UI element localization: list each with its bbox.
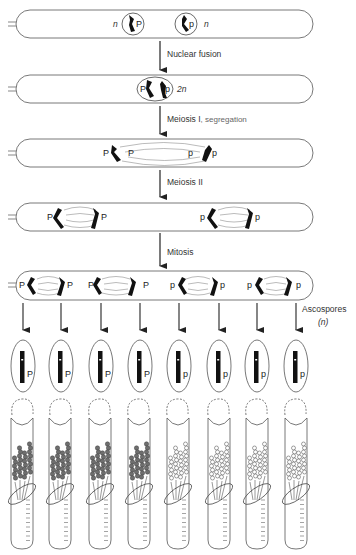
ploidy-label-2n: 2n xyxy=(177,85,186,94)
chromosome-icon xyxy=(202,145,212,162)
ascus-stage-1 xyxy=(8,10,313,38)
agar-slants xyxy=(5,480,312,508)
meiosis-1-label: Meiosis I, segregation xyxy=(167,115,247,124)
ploidy-label-n-right: n xyxy=(204,20,209,29)
tube-graduations xyxy=(26,500,304,541)
ascus-stage-3 xyxy=(8,139,313,167)
allele-label: P xyxy=(136,20,142,29)
allele-label: p xyxy=(189,20,194,29)
spore-allele: p xyxy=(183,370,188,379)
chromosome-icon xyxy=(53,208,64,229)
spore-allele: P xyxy=(65,370,71,379)
ascospores-ploidy: (n) xyxy=(318,318,328,327)
ascus-stage-2 xyxy=(8,75,313,103)
allele-label: P xyxy=(143,281,149,290)
mitosis-label: Mitosis xyxy=(167,248,193,257)
ascus-stage-5 xyxy=(8,271,313,300)
allele-label: p xyxy=(296,281,301,290)
spore-chromosomes xyxy=(20,351,298,383)
allele-label: P xyxy=(47,213,53,222)
spore-allele: p xyxy=(261,370,266,379)
nuclear-fusion-label: Nuclear fusion xyxy=(167,50,221,59)
allele-label: p xyxy=(170,281,175,290)
spore-allele: p xyxy=(300,370,305,379)
tube-tops xyxy=(11,418,307,425)
allele-label: P xyxy=(128,149,134,158)
spore-allele: P xyxy=(144,370,150,379)
ascus-stage-4 xyxy=(8,203,313,231)
ascospores-label: Ascospores xyxy=(302,305,346,314)
allele-label: p xyxy=(255,213,260,222)
chromosome-icon xyxy=(129,15,135,32)
spore-arrows xyxy=(23,303,296,330)
chromosome-icon xyxy=(182,15,189,32)
allele-label: p xyxy=(212,149,217,158)
allele-label: p xyxy=(220,281,225,290)
allele-label: P xyxy=(140,85,146,94)
allele-label: p xyxy=(165,85,170,94)
spore-allele: P xyxy=(105,370,111,379)
chromosome-icon xyxy=(245,208,253,229)
allele-label: P xyxy=(88,281,94,290)
allele-label: p xyxy=(247,281,252,290)
chromosome-icon xyxy=(91,208,99,229)
chromosome-icon xyxy=(111,145,121,162)
ploidy-label-n-left: n xyxy=(113,20,118,29)
allele-label: P xyxy=(101,213,107,222)
chromosome-icon xyxy=(207,208,218,229)
spore-allele: p xyxy=(223,370,228,379)
allele-label: P xyxy=(103,149,109,158)
chromosome-icon xyxy=(146,80,154,98)
allele-label: P xyxy=(19,281,25,290)
allele-label: p xyxy=(200,213,205,222)
allele-label: p xyxy=(188,149,193,158)
allele-label: P xyxy=(67,281,73,290)
meiosis-2-label: Meiosis II xyxy=(167,178,203,187)
tube-outlines xyxy=(11,418,307,549)
ascospores xyxy=(11,340,308,392)
spore-allele: P xyxy=(27,370,33,379)
